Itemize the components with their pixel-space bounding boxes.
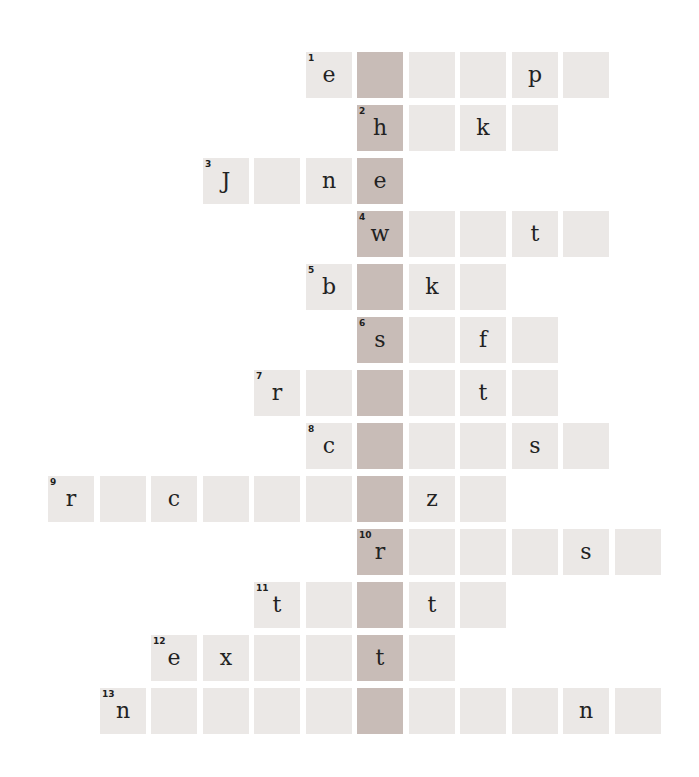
crossword-cell[interactable]: 9r (48, 476, 94, 522)
cell-letter: e (357, 167, 403, 195)
crossword-cell[interactable] (409, 211, 455, 257)
crossword-cell[interactable]: 5b (306, 264, 352, 310)
cell-letter: t (357, 644, 403, 672)
crossword-cell[interactable] (203, 688, 249, 734)
cell-letter: J (203, 167, 249, 195)
crossword-cell[interactable]: t (512, 211, 558, 257)
crossword-cell[interactable] (100, 476, 146, 522)
crossword-cell[interactable]: c (151, 476, 197, 522)
cell-letter: n (306, 167, 352, 195)
key-column-cell[interactable]: t (357, 635, 403, 681)
crossword-cell[interactable]: 3J (203, 158, 249, 204)
crossword-cell[interactable]: x (203, 635, 249, 681)
cell-letter: z (409, 485, 455, 513)
cell-letter: t (512, 220, 558, 248)
crossword-cell[interactable] (409, 317, 455, 363)
cell-letter: n (100, 697, 146, 725)
crossword-cell[interactable] (409, 688, 455, 734)
crossword-cell[interactable] (306, 688, 352, 734)
crossword-cell[interactable]: n (563, 688, 609, 734)
crossword-cell[interactable] (254, 158, 300, 204)
cell-letter: t (409, 591, 455, 619)
crossword-cell[interactable]: k (460, 105, 506, 151)
crossword-cell[interactable] (460, 529, 506, 575)
crossword-cell[interactable] (306, 582, 352, 628)
crossword-cell[interactable]: s (512, 423, 558, 469)
cell-letter: s (357, 326, 403, 354)
key-column-cell[interactable] (357, 476, 403, 522)
crossword-cell[interactable]: 1e (306, 52, 352, 98)
crossword-cell[interactable] (460, 688, 506, 734)
crossword-cell[interactable]: n (306, 158, 352, 204)
crossword-cell[interactable] (563, 211, 609, 257)
cell-letter: h (357, 114, 403, 142)
key-column-cell[interactable]: 2h (357, 105, 403, 151)
crossword-cell[interactable] (409, 423, 455, 469)
crossword-cell[interactable] (460, 211, 506, 257)
key-column-cell[interactable] (357, 423, 403, 469)
crossword-cell[interactable] (254, 688, 300, 734)
crossword-cell[interactable] (460, 423, 506, 469)
crossword-cell[interactable] (460, 582, 506, 628)
crossword-cell[interactable] (409, 529, 455, 575)
crossword-cell[interactable] (615, 529, 661, 575)
cell-letter: t (460, 379, 506, 407)
crossword-cell[interactable] (615, 688, 661, 734)
crossword-cell[interactable] (409, 370, 455, 416)
crossword-cell[interactable] (563, 423, 609, 469)
key-column-cell[interactable]: 6s (357, 317, 403, 363)
crossword-cell[interactable] (460, 264, 506, 310)
crossword-cell[interactable] (512, 105, 558, 151)
crossword-cell[interactable] (512, 529, 558, 575)
cell-letter: r (254, 379, 300, 407)
crossword-cell[interactable] (563, 52, 609, 98)
crossword-cell[interactable] (460, 476, 506, 522)
crossword-cell[interactable] (512, 370, 558, 416)
key-column-cell[interactable] (357, 582, 403, 628)
crossword-cell[interactable] (151, 688, 197, 734)
crossword-cell[interactable] (254, 476, 300, 522)
key-column-cell[interactable]: 10r (357, 529, 403, 575)
key-column-cell[interactable]: 4w (357, 211, 403, 257)
crossword-cell[interactable]: s (563, 529, 609, 575)
key-column-cell[interactable] (357, 688, 403, 734)
key-column-cell[interactable] (357, 52, 403, 98)
crossword-cell[interactable]: k (409, 264, 455, 310)
crossword-cell[interactable] (409, 635, 455, 681)
cell-letter: c (151, 485, 197, 513)
crossword-cell[interactable]: f (460, 317, 506, 363)
crossword-cell[interactable]: z (409, 476, 455, 522)
cell-letter: r (357, 538, 403, 566)
crossword-cell[interactable]: t (460, 370, 506, 416)
cell-letter: k (460, 114, 506, 142)
cell-letter: s (563, 538, 609, 566)
crossword-cell[interactable] (409, 105, 455, 151)
crossword-cell[interactable] (512, 688, 558, 734)
crossword-cell[interactable] (460, 52, 506, 98)
crossword-cell[interactable]: 7r (254, 370, 300, 416)
key-column-cell[interactable]: e (357, 158, 403, 204)
crossword-grid: 1ep2hk3Jne4wt5bk6sf7rt8cs9rcz10rs11tt12e… (0, 0, 699, 777)
crossword-cell[interactable] (512, 317, 558, 363)
crossword-cell[interactable]: 12e (151, 635, 197, 681)
cell-letter: e (306, 61, 352, 89)
cell-letter: x (203, 644, 249, 672)
cell-letter: n (563, 697, 609, 725)
crossword-cell[interactable]: 11t (254, 582, 300, 628)
cell-letter: p (512, 61, 558, 89)
key-column-cell[interactable] (357, 264, 403, 310)
crossword-cell[interactable] (306, 476, 352, 522)
cell-letter: t (254, 591, 300, 619)
crossword-cell[interactable]: 13n (100, 688, 146, 734)
crossword-cell[interactable] (254, 635, 300, 681)
cell-letter: w (357, 220, 403, 248)
crossword-cell[interactable]: 8c (306, 423, 352, 469)
crossword-cell[interactable]: t (409, 582, 455, 628)
crossword-cell[interactable] (203, 476, 249, 522)
crossword-cell[interactable] (409, 52, 455, 98)
crossword-cell[interactable]: p (512, 52, 558, 98)
key-column-cell[interactable] (357, 370, 403, 416)
cell-letter: e (151, 644, 197, 672)
crossword-cell[interactable] (306, 370, 352, 416)
crossword-cell[interactable] (306, 635, 352, 681)
